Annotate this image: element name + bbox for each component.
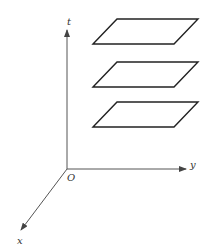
plane-top bbox=[93, 19, 198, 44]
plane-middle bbox=[93, 62, 198, 87]
y-axis-label: y bbox=[189, 159, 196, 170]
t-axis-label: t bbox=[67, 16, 72, 27]
coordinate-diagram: t y x O bbox=[0, 0, 211, 248]
x-axis-label: x bbox=[17, 235, 23, 246]
x-axis bbox=[21, 169, 67, 230]
origin-label: O bbox=[67, 172, 75, 183]
plane-bottom bbox=[93, 102, 198, 127]
